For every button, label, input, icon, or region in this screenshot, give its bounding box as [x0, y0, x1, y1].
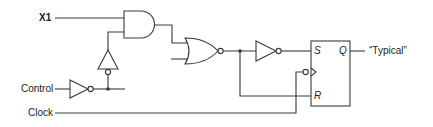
- r-pin-label: R: [314, 91, 321, 101]
- output-label: “Typical”: [369, 46, 407, 56]
- nor-bubble-icon: [218, 48, 223, 53]
- clock-wire: [55, 72, 303, 113]
- q-pin-label: Q: [339, 46, 347, 56]
- circuit-diagram: [0, 0, 433, 127]
- inverter-bubble-icon: [276, 48, 281, 53]
- junction-dot-icon: [106, 87, 110, 91]
- control-inverter-bubble-icon: [88, 86, 93, 91]
- nor-gate: [185, 38, 218, 64]
- buffer-gate: [98, 50, 118, 69]
- x1-label: X1: [39, 13, 51, 23]
- buffer-bubble-icon: [105, 69, 110, 74]
- r-input-wire: [240, 51, 311, 96]
- control-label: Control: [21, 84, 53, 94]
- and-lower-input-wire: [108, 32, 124, 50]
- and-gate: [124, 11, 155, 38]
- s-pin-label: S: [314, 46, 321, 56]
- and-output-wire: [155, 25, 190, 43]
- clock-label: Clock: [28, 108, 53, 118]
- clock-bubble-icon: [303, 69, 308, 74]
- inverter-gate: [256, 41, 276, 61]
- control-inverter: [70, 80, 88, 98]
